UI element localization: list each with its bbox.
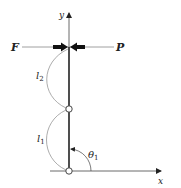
link-l1-dimension-arc <box>47 110 67 170</box>
link-l1-label: l1 <box>37 133 45 146</box>
two-link-rod-diagram: x y F P l2 l1 θ1 <box>0 0 181 188</box>
force-p-label: P <box>115 41 125 54</box>
link-l2-label: l2 <box>36 70 44 83</box>
middle-hinge-joint <box>66 106 72 112</box>
force-f-label: F <box>10 41 20 54</box>
x-axis-label: x <box>158 176 163 186</box>
link-l2-dimension-arc <box>47 49 68 108</box>
force-p-arrow-icon <box>70 43 85 52</box>
base-pivot-joint <box>66 168 72 174</box>
y-axis-label: y <box>58 10 65 20</box>
angle-theta1-label: θ1 <box>88 149 99 162</box>
